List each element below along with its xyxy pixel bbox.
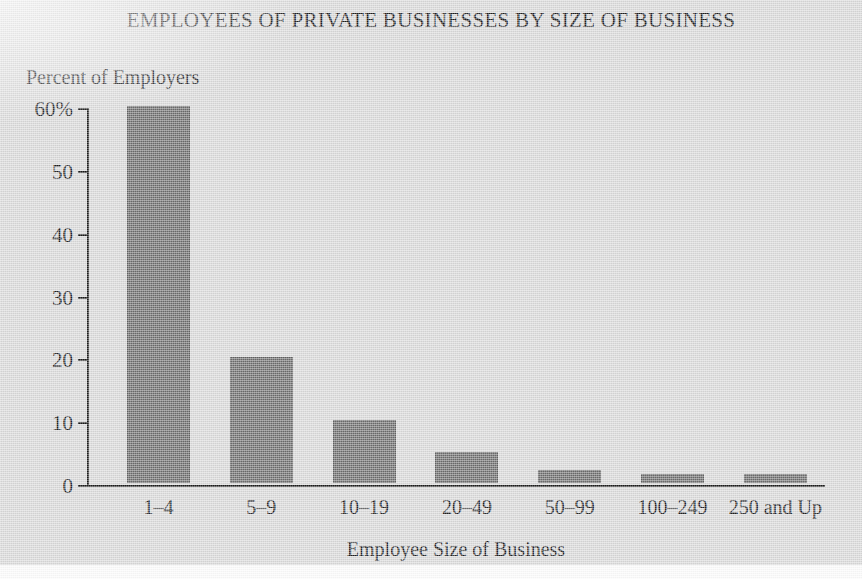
y-tick-mark (78, 171, 88, 173)
y-tick-label: 20 (52, 348, 73, 373)
x-tick-label: 5–9 (246, 496, 276, 519)
bar (230, 357, 293, 483)
x-tick-label: 100–249 (638, 496, 708, 519)
x-axis-label: Employee Size of Business (87, 538, 825, 561)
x-tick-label: 20–49 (442, 496, 492, 519)
x-tick-label: 1–4 (144, 496, 174, 519)
chart-title: EMPLOYEES OF PRIVATE BUSINESSES BY SIZE … (0, 8, 862, 33)
y-tick-label: 50 (52, 159, 73, 184)
plot-area: 0102030405060% 1–45–910–1920–4950–99100–… (87, 108, 825, 485)
y-tick-label: 10 (52, 411, 73, 436)
y-tick-mark (78, 108, 88, 110)
y-tick-label: 40 (52, 222, 73, 247)
x-tick-label: 10–19 (339, 496, 389, 519)
chart-figure: EMPLOYEES OF PRIVATE BUSINESSES BY SIZE … (0, 0, 862, 579)
y-tick-mark (78, 422, 88, 424)
y-tick-label: 0 (63, 474, 74, 499)
y-tick-label: 60% (35, 97, 74, 122)
y-tick-label: 30 (52, 285, 73, 310)
bar (641, 474, 704, 483)
x-tick-label: 250 and Up (729, 496, 822, 519)
bar (333, 420, 396, 483)
x-axis-line (87, 485, 825, 487)
y-axis-label: Percent of Employers (26, 66, 199, 89)
page-bottom-margin (0, 565, 862, 579)
y-tick-mark (78, 485, 88, 487)
bar (744, 474, 807, 483)
bar (435, 452, 498, 483)
bar (127, 106, 190, 483)
bar (538, 470, 601, 483)
y-tick-mark (78, 297, 88, 299)
y-tick-mark (78, 359, 88, 361)
y-tick-mark (78, 234, 88, 236)
x-tick-label: 50–99 (545, 496, 595, 519)
